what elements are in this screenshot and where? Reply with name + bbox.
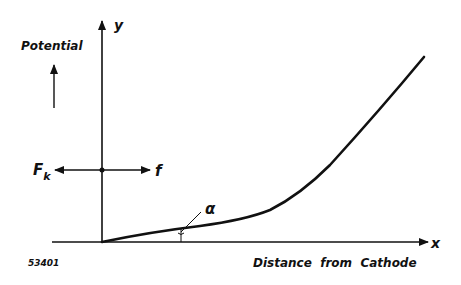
potential-diagram: x y Potential Fk f α 53401 Distance from… bbox=[0, 0, 461, 285]
angle-label: α bbox=[205, 200, 216, 218]
y-axis-label: y bbox=[114, 17, 124, 33]
distance-label: Distance from Cathode bbox=[253, 256, 417, 270]
figure-number: 53401 bbox=[28, 258, 59, 268]
force-left-label: Fk bbox=[33, 161, 51, 183]
potential-curve bbox=[102, 57, 424, 242]
x-axis-label: x bbox=[430, 235, 441, 251]
force-right-label: f bbox=[155, 162, 164, 180]
potential-label: Potential bbox=[21, 39, 83, 53]
angle-leader bbox=[181, 212, 201, 232]
